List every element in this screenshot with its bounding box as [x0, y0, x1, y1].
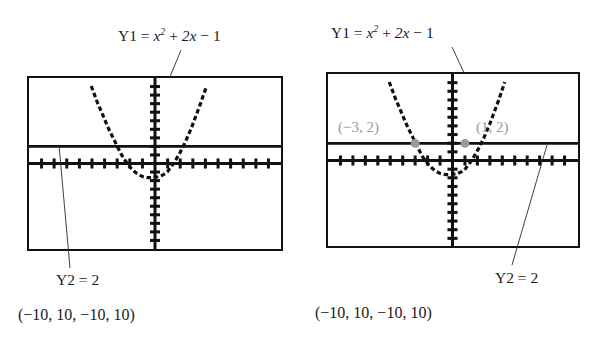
y2-leader-line-left	[0, 0, 297, 343]
window-range-label-left: (−10, 10, −10, 10)	[18, 307, 135, 323]
figure-root: Y1 = x2 + 2x − 1	[0, 0, 594, 343]
y2-name-right: Y2	[495, 269, 514, 286]
y2-equals-left: =	[79, 271, 88, 288]
window-range-label-right: (−10, 10, −10, 10)	[315, 305, 432, 321]
y2-equals-right: =	[518, 269, 527, 286]
panel-left: Y1 = x2 + 2x − 1	[0, 0, 297, 343]
y2-value-right: 2	[530, 269, 538, 286]
y2-name-left: Y2	[56, 271, 75, 288]
y2-value-left: 2	[91, 271, 99, 288]
y2-equation-label-right: Y2 = 2	[495, 270, 538, 286]
panel-right: Y1 = x2 + 2x − 1	[297, 0, 594, 343]
y2-equation-label-left: Y2 = 2	[56, 272, 99, 288]
y2-leader-line-right	[297, 0, 594, 343]
